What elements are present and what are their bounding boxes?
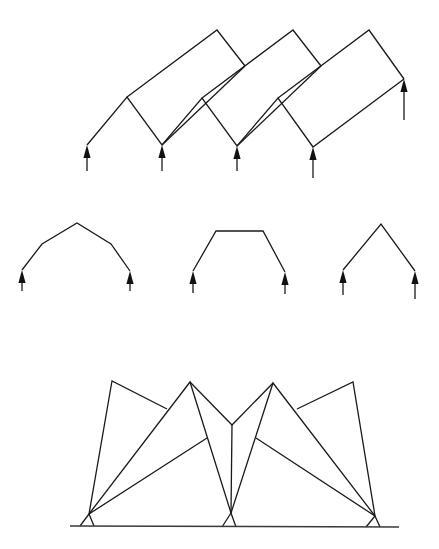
polygonal-arch-panel — [18, 223, 133, 291]
member-line — [89, 381, 167, 514]
pin-support-icon — [222, 513, 236, 527]
reaction-arrow-icon — [411, 271, 418, 299]
member-line — [193, 231, 285, 272]
pin-support-icon — [80, 514, 94, 526]
member-line — [87, 79, 404, 147]
pin-support-icon — [366, 516, 380, 527]
reaction-arrow-icon — [18, 270, 25, 291]
triangular-frame-panel — [339, 224, 418, 299]
reaction-arrow-icon — [189, 271, 196, 293]
member-line — [89, 438, 207, 514]
reaction-arrow-icon — [233, 146, 240, 171]
member-line — [231, 425, 232, 513]
member-line — [278, 30, 404, 98]
trapezoidal-frame-panel — [189, 231, 288, 294]
member-line — [190, 382, 273, 425]
member-line — [343, 224, 415, 271]
member-line — [256, 438, 375, 516]
reaction-arrow-icon — [339, 270, 346, 295]
member-line — [202, 30, 321, 98]
structural-diagram — [0, 0, 439, 549]
reaction-arrow-icon — [83, 145, 90, 171]
member-line — [297, 382, 375, 516]
member-line — [22, 223, 130, 271]
member-line — [127, 30, 245, 97]
folded-plate-roof-panel — [83, 30, 407, 178]
ground-line — [70, 526, 399, 527]
member-line — [237, 66, 321, 146]
member-line — [231, 383, 375, 516]
reaction-arrow-icon — [126, 271, 133, 291]
pinned-folded-truss-panel — [70, 381, 399, 527]
member-line — [162, 66, 245, 145]
reaction-arrow-icon — [309, 147, 316, 178]
reaction-arrow-icon — [281, 272, 288, 294]
reaction-arrow-icon — [400, 79, 407, 120]
reaction-arrow-icon — [158, 145, 165, 171]
